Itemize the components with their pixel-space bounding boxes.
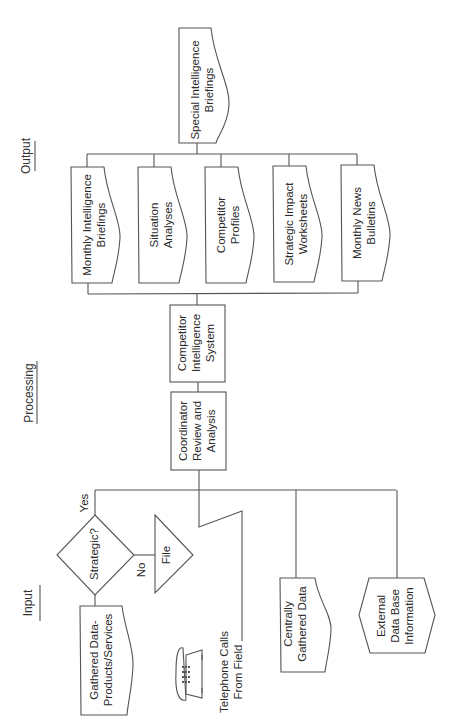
- external-data-label: External Data Base Information: [374, 580, 418, 652]
- coordinator-label: Coordinator Review and Analysis: [176, 396, 220, 466]
- special-briefings-label: Special Intelligence Briefings: [188, 35, 218, 145]
- gathered-data-label: Gathered Data- Products/Services: [87, 610, 117, 710]
- telephone-icon: [176, 648, 202, 700]
- file-label: File: [159, 543, 175, 567]
- section-label-output: Output: [19, 131, 35, 181]
- no-label: No: [134, 560, 150, 580]
- telephone-label: Telephone Calls From Field: [217, 622, 247, 722]
- output-bottom-bus: [88, 293, 358, 294]
- monthly-news-label: Monthly News Bulletins: [350, 168, 380, 278]
- competitor-system-label: Competitor Intelligence System: [175, 308, 219, 378]
- section-label-input: Input: [21, 583, 37, 623]
- telephone-connector: [199, 490, 242, 641]
- situation-analyses-label: Situation Analyses: [147, 170, 177, 280]
- strategic-impact-label: Strategic Impact Worksheets: [282, 169, 312, 279]
- yes-label: Yes: [77, 491, 93, 515]
- strategic-label: Strategic?: [87, 524, 103, 584]
- competitor-profiles-label: Competitor Profiles: [214, 170, 244, 280]
- monthly-briefings-label: Monthly Intelligence Briefings: [80, 170, 110, 280]
- centrally-gathered-label: Centrally Gathered Data: [281, 584, 311, 664]
- section-label-processing: Processing: [22, 361, 38, 426]
